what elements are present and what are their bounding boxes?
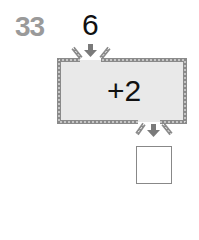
- down-arrow-icon: [147, 124, 160, 137]
- down-arrow-icon: [84, 44, 97, 57]
- operation-label: +2: [107, 74, 141, 108]
- answer-box[interactable]: [136, 146, 172, 184]
